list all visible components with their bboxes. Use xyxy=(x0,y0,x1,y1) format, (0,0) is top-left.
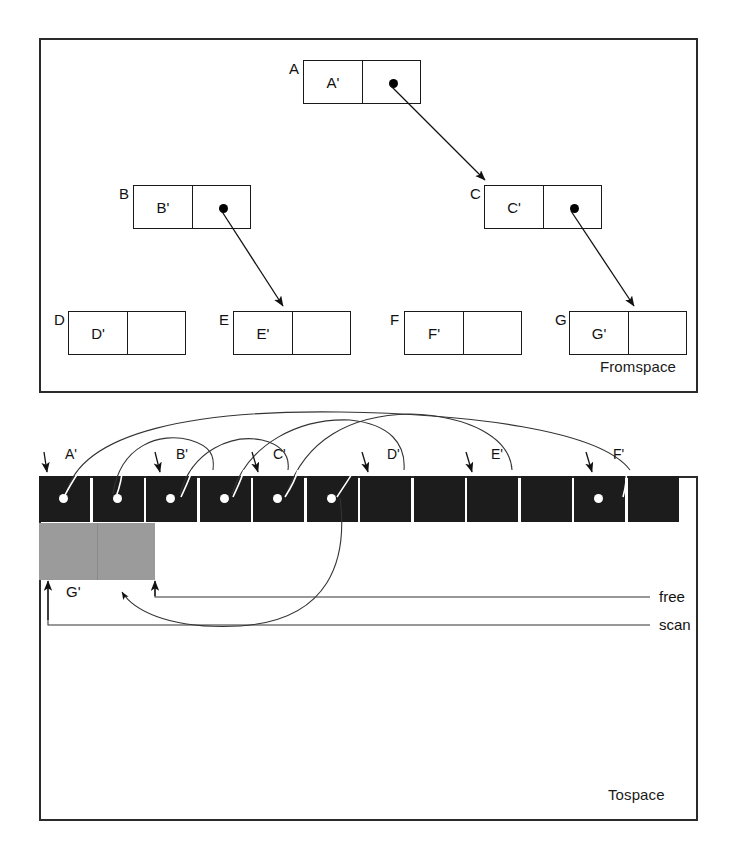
tospace-arrowhead-eprime xyxy=(466,452,472,472)
free-pointer xyxy=(155,581,650,597)
tospace-arc-d xyxy=(232,420,404,494)
pointer-arrow-c-to-g xyxy=(571,211,634,306)
vector-overlay xyxy=(0,0,734,861)
free-pointer-label: free xyxy=(659,588,685,605)
tospace-arrowhead-bprime xyxy=(155,452,160,472)
tospace-label-e-prime: E' xyxy=(491,446,503,462)
tospace-arc-a xyxy=(66,412,630,495)
pointer-arrow-b-to-e xyxy=(221,210,283,306)
scan-pointer xyxy=(48,581,650,625)
tospace-arc-b xyxy=(113,438,213,494)
pointer-arrow-a-to-c xyxy=(390,85,485,180)
tospace-label-f-prime: F' xyxy=(613,446,624,462)
figure-canvas: A A' B B' C C' D D' E E' F F' G G' xyxy=(0,0,734,861)
tospace-arrowhead-fprime xyxy=(586,452,592,472)
tospace-label-b-prime: B' xyxy=(176,446,188,462)
tospace-arrowhead-dprime xyxy=(362,452,368,472)
tospace-label-c-prime: C' xyxy=(273,446,286,462)
tospace-arrowhead-aprime xyxy=(44,452,47,472)
scan-pointer-label: scan xyxy=(659,616,691,633)
tospace-label-a-prime: A' xyxy=(65,446,77,462)
tospace-cell-connectors xyxy=(64,470,626,497)
tospace-arc-g-prime xyxy=(122,498,342,626)
tospace-label-d-prime: D' xyxy=(387,446,400,462)
